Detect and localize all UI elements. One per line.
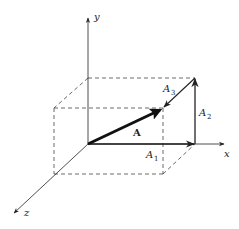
a2-label: A 2 <box>198 107 211 121</box>
component-vectors <box>88 78 195 144</box>
vector-a <box>88 110 160 144</box>
vector-a-label: A <box>132 127 141 138</box>
y-axis-label: y <box>93 11 100 22</box>
right-bottom-diagonal <box>163 144 195 174</box>
svg-text:1: 1 <box>154 155 158 163</box>
z-axis <box>14 144 88 213</box>
a3-label: A 3 <box>162 83 175 97</box>
svg-text:A: A <box>145 149 153 160</box>
axes <box>14 18 224 213</box>
x-axis-label: x <box>224 148 230 159</box>
svg-text:3: 3 <box>171 89 175 97</box>
vector-diagram: y x z A A 1 A 2 A 3 <box>0 0 239 229</box>
svg-text:2: 2 <box>207 113 211 121</box>
svg-text:A: A <box>162 83 170 94</box>
svg-text:A: A <box>198 107 206 118</box>
a1-label: A 1 <box>145 149 158 163</box>
left-top-diagonal <box>54 78 88 108</box>
z-axis-label: z <box>23 207 30 218</box>
